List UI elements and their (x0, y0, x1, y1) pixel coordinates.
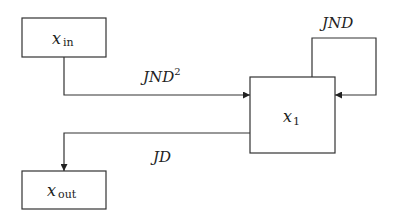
edge-x1-to-out: JD (64, 133, 250, 171)
node-x-in-var: x (52, 29, 61, 48)
svg-text:JND2: JND2 (140, 66, 181, 86)
node-x-out: xout (22, 171, 106, 209)
node-x1: x1 (250, 77, 335, 153)
flow-diagram: xin x1 xout JND2 JND JD (0, 0, 393, 223)
node-x1-var: x (283, 107, 292, 126)
edge-in-to-x1-label: JND (140, 68, 174, 86)
edge-x1-loop-label: JND (319, 14, 353, 32)
edge-x1-to-out-label: JD (150, 148, 171, 166)
node-x1-sub: 1 (293, 115, 300, 128)
node-x-in: xin (22, 18, 106, 57)
node-x-in-sub: in (63, 36, 74, 49)
edge-in-to-x1-sup: 2 (174, 66, 180, 77)
edge-in-to-x1: JND2 (64, 57, 250, 95)
node-x-out-sub: out (58, 188, 77, 201)
node-x-out-var: x (47, 181, 56, 200)
